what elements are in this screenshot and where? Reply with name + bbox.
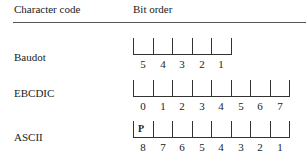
bit-divider (172, 121, 173, 138)
bit-number: 7 (153, 141, 173, 153)
bit-divider (192, 80, 193, 97)
bit-number: 5 (192, 141, 212, 153)
bit-divider (231, 121, 232, 138)
bit-divider (270, 121, 271, 138)
bit-baseline (133, 54, 231, 55)
bit-divider (172, 80, 173, 97)
bit-number: 4 (211, 100, 231, 112)
bit-divider (172, 38, 173, 55)
bit-number: 1 (270, 141, 290, 153)
bit-divider (133, 80, 134, 97)
bit-divider (192, 38, 193, 55)
bit-divider (289, 121, 290, 138)
bit-divider (153, 80, 154, 97)
bit-number: 8 (133, 141, 153, 153)
bit-number: 3 (192, 100, 212, 112)
bit-divider (250, 121, 251, 138)
bit-divider (153, 38, 154, 55)
row-label-ebcdic: EBCDIC (14, 87, 54, 99)
bit-divider (133, 38, 134, 55)
bit-number: 2 (172, 100, 192, 112)
row-label-baudot: Baudot (14, 51, 46, 63)
header-bit-order: Bit order (133, 3, 172, 15)
bit-divider (231, 38, 232, 55)
bit-divider (270, 80, 271, 97)
bit-divider (153, 121, 154, 138)
bit-number: 0 (133, 100, 153, 112)
bit-number: 5 (133, 58, 153, 70)
header-rule (13, 22, 306, 23)
bit-number: 4 (211, 141, 231, 153)
bit-number: 1 (153, 100, 173, 112)
bit-divider (133, 121, 134, 138)
bit-divider (250, 80, 251, 97)
bit-number: 7 (270, 100, 290, 112)
header-character-code: Character code (14, 3, 80, 15)
bit-number: 6 (250, 100, 270, 112)
bit-divider (211, 121, 212, 138)
bit-divider (192, 121, 193, 138)
bit-divider (231, 80, 232, 97)
bit-number: 3 (172, 58, 192, 70)
bit-number: 5 (231, 100, 251, 112)
parity-bit-label: P (138, 123, 144, 134)
bit-number: 3 (231, 141, 251, 153)
bit-number: 4 (153, 58, 173, 70)
row-label-ascii: ASCII (14, 131, 43, 143)
bit-number: 2 (192, 58, 212, 70)
bit-divider (211, 80, 212, 97)
bit-divider (289, 80, 290, 97)
bit-number: 2 (250, 141, 270, 153)
bit-divider (211, 38, 212, 55)
bit-number: 6 (172, 141, 192, 153)
bit-number: 1 (211, 58, 231, 70)
